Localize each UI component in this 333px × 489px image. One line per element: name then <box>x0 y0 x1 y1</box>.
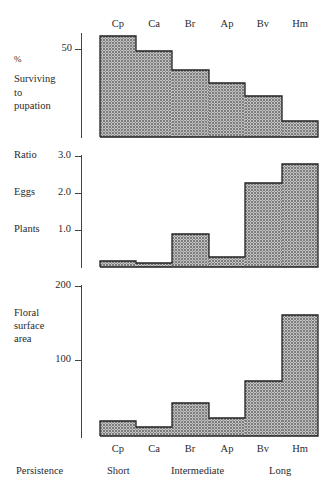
persistence-label: Persistence <box>16 465 63 476</box>
category-label-hm: Hm <box>282 443 318 454</box>
category-label-br: Br <box>172 443 208 454</box>
category-label-bv: Bv <box>245 443 281 454</box>
floral-area-outline <box>0 0 333 489</box>
category-label-cp: Cp <box>100 443 136 454</box>
persistence-group-short: Short <box>107 465 130 476</box>
category-label-ca: Ca <box>136 443 172 454</box>
category-label-ap: Ap <box>209 443 245 454</box>
persistence-group-long: Long <box>269 465 291 476</box>
persistence-group-intermediate: Intermediate <box>171 465 224 476</box>
